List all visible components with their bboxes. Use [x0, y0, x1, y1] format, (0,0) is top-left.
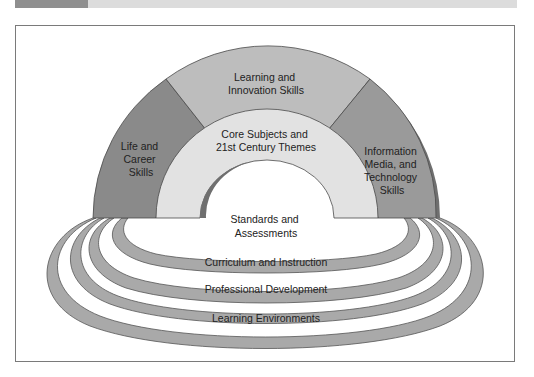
- label-standards-assessments: Standards and Assessments: [230, 213, 301, 239]
- label-learning-innovation: Learning and Innovation Skills: [228, 71, 304, 96]
- label-core-subjects: Core Subjects and 21st Century Themes: [216, 128, 316, 153]
- label-professional-development: Professional Development: [205, 283, 328, 295]
- rainbow-diagram: Learning and Innovation Skills Life and …: [0, 0, 534, 377]
- label-learning-environments: Learning Environments: [212, 312, 320, 324]
- label-curriculum-instruction: Curriculum and Instruction: [205, 256, 328, 268]
